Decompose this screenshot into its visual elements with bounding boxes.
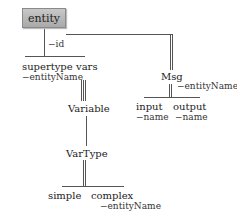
input-attribute: −name: [136, 113, 169, 122]
entity-node: entity: [22, 8, 66, 28]
output-attribute: −name: [175, 113, 208, 122]
vartype-node: VarType: [66, 149, 108, 159]
complex-node: complex: [91, 191, 133, 201]
vars-node: vars: [76, 62, 98, 72]
msg-attribute: −entityName: [177, 82, 237, 91]
output-node: output: [173, 102, 206, 112]
supertype-node: supertype: [22, 62, 73, 72]
supertype-attribute: −entityName: [22, 73, 83, 82]
simple-node: simple: [48, 191, 81, 201]
input-node: input: [136, 102, 163, 112]
complex-attribute: −entityName: [100, 202, 161, 211]
entity-label: entity: [28, 12, 60, 25]
entity-id-attribute: −id: [48, 40, 64, 49]
variable-node: Variable: [68, 104, 110, 114]
